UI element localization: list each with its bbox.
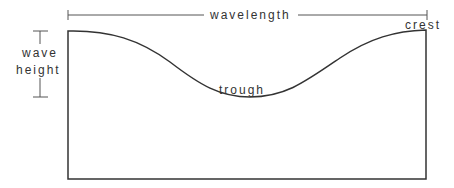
- wave-profile: [68, 30, 426, 179]
- wave-height-label-line2: height: [16, 63, 61, 77]
- trough-label: trough: [219, 83, 265, 97]
- wavelength-label: wavelength: [206, 8, 295, 22]
- wave-height-label-line1: wave: [22, 46, 58, 60]
- crest-label: crest: [405, 18, 441, 32]
